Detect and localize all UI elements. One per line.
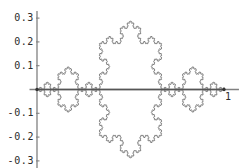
koch-curve-upper-path [37,21,224,90]
y-tick-label-neg0p2: -0.2 [8,132,34,142]
endpoint-marker-0 [35,88,38,91]
koch-curve-lower-path [37,90,224,159]
y-tick-label-0p2: 0.2 [14,37,34,47]
fractal-plot-figure: 0.30.20.1-0.1-0.2-0.3 1 [0,0,241,168]
y-tick-label-neg0p1: -0.1 [8,108,34,118]
plot-canvas [0,0,241,168]
data-group [35,21,225,158]
y-tick-label-0p3: 0.3 [14,13,34,23]
y-tick-label-0p1: 0.1 [14,61,34,71]
y-tick-label-neg0p3: -0.3 [8,156,34,166]
x-tick-label-1: 1 [225,92,232,102]
